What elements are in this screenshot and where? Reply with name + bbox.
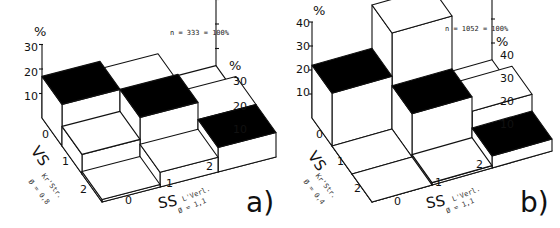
z-tick-right: 10 xyxy=(500,118,514,131)
z-tick-right: 20 xyxy=(500,95,514,108)
z-tick-right: 30 xyxy=(500,72,514,85)
z-axis-unit-left: % xyxy=(313,3,325,18)
vs-row-label: 2 xyxy=(354,182,361,195)
vs-row-label: 0 xyxy=(316,128,323,141)
ss-axis-title: SS xyxy=(425,191,447,212)
z-tick-right: 10 xyxy=(233,123,247,136)
chart-panel-b: % 40 30 20 10 % 40 30 20 10 n = 1052 = 1… xyxy=(280,0,560,228)
z-tick-right: 30 xyxy=(233,75,247,88)
panel-label-b: b) xyxy=(520,186,549,219)
ss-col-label: 1 xyxy=(166,177,173,190)
z-tick-right: 20 xyxy=(233,100,247,113)
z-tick-left: 30 xyxy=(296,40,310,53)
vs-row-label: 1 xyxy=(337,155,344,168)
ss-axis-title: SS xyxy=(157,191,179,212)
chart-b-3d-bars xyxy=(280,0,560,228)
z-tick-left: 40 xyxy=(296,17,310,30)
z-tick-right: 40 xyxy=(500,49,514,62)
vs-row-label: 0 xyxy=(42,128,49,141)
z-tick-left: 20 xyxy=(24,66,38,79)
ss-col-label: 1 xyxy=(435,176,442,189)
z-tick-left: 30 xyxy=(24,41,38,54)
ss-col-label: 2 xyxy=(206,160,213,173)
z-tick-left: 10 xyxy=(296,86,310,99)
z-axis-unit-left: % xyxy=(34,24,46,39)
z-tick-left: 10 xyxy=(24,90,38,103)
chart-panel-a: % 30 20 10 % 30 20 10 n = 333 = 100% 0 1… xyxy=(0,0,280,228)
z-axis-unit-right: % xyxy=(229,58,241,73)
vs-row-label: 2 xyxy=(80,183,87,196)
panel-label-a: a) xyxy=(246,186,274,219)
z-axis-unit-right: % xyxy=(496,34,508,49)
ss-col-label: 0 xyxy=(394,195,401,208)
vs-row-label: 1 xyxy=(62,155,69,168)
sample-size-note: n = 1052 = 100% xyxy=(445,25,508,33)
ss-col-label: 0 xyxy=(125,194,132,207)
z-tick-left: 20 xyxy=(296,63,310,76)
ss-col-label: 2 xyxy=(476,158,483,171)
sample-size-note: n = 333 = 100% xyxy=(170,29,229,37)
